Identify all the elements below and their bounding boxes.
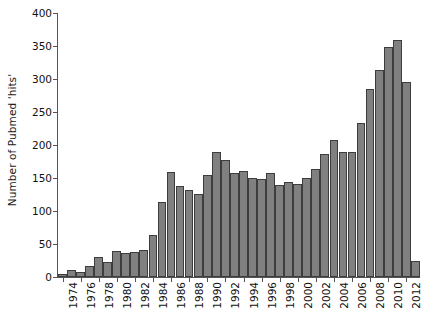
y-tick-label: 350 xyxy=(32,40,52,52)
bar-1976 xyxy=(76,272,85,277)
x-axis-tick-labels: 1974197619781980198219841986198819901992… xyxy=(0,282,428,316)
bar-2007 xyxy=(357,123,366,277)
bar-1994 xyxy=(239,171,248,277)
x-tick-label-2012: 2012 xyxy=(410,282,422,309)
bar-2005 xyxy=(339,152,348,277)
x-tick-label-1980: 1980 xyxy=(121,282,133,309)
bar-1979 xyxy=(103,262,112,277)
x-tick-label-1996: 1996 xyxy=(266,282,278,309)
y-tick-label: 400 xyxy=(32,7,52,19)
x-tick-label-2000: 2000 xyxy=(302,282,314,309)
y-tick-mark xyxy=(53,178,57,179)
x-tick-label-1992: 1992 xyxy=(229,282,241,309)
bar-2002 xyxy=(311,169,320,277)
bar-1996 xyxy=(257,179,266,277)
bar-1982 xyxy=(130,252,139,277)
y-tick-mark xyxy=(53,211,57,212)
bar-2010 xyxy=(384,47,393,277)
y-tick-mark xyxy=(53,13,57,14)
y-tick-mark xyxy=(53,79,57,80)
bar-1988 xyxy=(185,190,194,277)
bar-1980 xyxy=(112,251,121,277)
bar-1981 xyxy=(121,253,130,277)
bar-1995 xyxy=(248,178,257,277)
bar-2000 xyxy=(293,184,302,277)
y-axis-tick-labels: 050100150200250300350400 xyxy=(22,0,52,290)
bar-1974 xyxy=(58,274,67,277)
x-tick-label-1994: 1994 xyxy=(248,282,260,309)
x-tick-label-1990: 1990 xyxy=(211,282,223,309)
y-tick-label: 50 xyxy=(39,238,52,250)
bar-2001 xyxy=(302,178,311,277)
bar-2013 xyxy=(411,261,420,278)
bar-2006 xyxy=(348,152,357,277)
y-tick-mark xyxy=(53,145,57,146)
bar-1986 xyxy=(167,172,176,277)
bar-1975 xyxy=(67,270,76,277)
bar-1997 xyxy=(266,173,275,277)
y-tick-label: 300 xyxy=(32,73,52,85)
bar-1984 xyxy=(149,235,158,277)
x-tick-label-2004: 2004 xyxy=(338,282,350,309)
bar-1993 xyxy=(230,173,239,277)
bar-1999 xyxy=(284,182,293,277)
x-tick-label-1998: 1998 xyxy=(284,282,296,309)
x-tick-label-1976: 1976 xyxy=(85,282,97,309)
x-tick-label-1982: 1982 xyxy=(139,282,151,309)
bar-1977 xyxy=(85,266,94,277)
bar-2004 xyxy=(330,140,339,277)
y-tick-mark xyxy=(53,244,57,245)
bar-1978 xyxy=(94,257,103,277)
x-tick-label-2006: 2006 xyxy=(356,282,368,309)
x-tick-label-1984: 1984 xyxy=(157,282,169,309)
bar-2012 xyxy=(402,82,411,277)
y-tick-label: 100 xyxy=(32,205,52,217)
bar-2011 xyxy=(393,40,402,277)
x-tick-label-1978: 1978 xyxy=(103,282,115,309)
pubmed-hits-bar-chart: Number of Pubmed 'hits' 0501001502002503… xyxy=(0,0,428,316)
y-tick-mark xyxy=(53,112,57,113)
bar-1987 xyxy=(176,186,185,277)
y-axis-title: Number of Pubmed 'hits' xyxy=(0,0,24,280)
y-tick-label: 150 xyxy=(32,172,52,184)
bar-1985 xyxy=(158,202,167,277)
y-tick-label: 200 xyxy=(32,139,52,151)
bar-1989 xyxy=(194,194,203,277)
bar-1998 xyxy=(275,185,284,277)
bar-2003 xyxy=(320,154,329,277)
x-tick-label-2008: 2008 xyxy=(374,282,386,309)
bar-1992 xyxy=(221,160,230,277)
bar-1991 xyxy=(212,152,221,277)
x-tick-label-1974: 1974 xyxy=(67,282,79,309)
plot-area xyxy=(58,13,420,277)
x-tick-label-1986: 1986 xyxy=(175,282,187,309)
bar-1983 xyxy=(139,250,148,277)
y-tick-mark xyxy=(53,46,57,47)
bar-2009 xyxy=(375,70,384,277)
y-axis-title-label: Number of Pubmed 'hits' xyxy=(6,74,18,206)
x-tick-label-2010: 2010 xyxy=(392,282,404,309)
x-tick-label-1988: 1988 xyxy=(193,282,205,309)
bar-1990 xyxy=(203,175,212,277)
bar-2008 xyxy=(366,89,375,277)
x-tick-label-2002: 2002 xyxy=(320,282,332,309)
x-axis-line xyxy=(57,277,420,278)
y-tick-label: 250 xyxy=(32,106,52,118)
